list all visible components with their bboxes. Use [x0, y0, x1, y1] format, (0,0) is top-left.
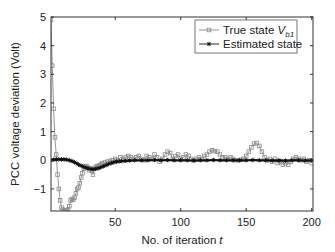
- star-marker: [237, 158, 241, 162]
- star-marker: [205, 158, 209, 162]
- star-marker: [185, 158, 189, 162]
- star-marker: [211, 158, 215, 162]
- legend-label-text: Estimated state: [223, 38, 302, 50]
- y-tick-label: 2: [40, 97, 46, 109]
- star-marker: [283, 158, 287, 162]
- y-tick-label: 0: [40, 154, 46, 166]
- star-marker: [277, 158, 281, 162]
- x-tick-label: 150: [237, 216, 255, 228]
- star-marker: [152, 158, 156, 162]
- y-tick-label: 5: [40, 11, 46, 23]
- legend-label: Estimated state: [223, 38, 302, 50]
- y-tick-label: 3: [40, 68, 46, 80]
- star-marker: [290, 158, 294, 162]
- star-marker: [165, 158, 169, 162]
- star-marker: [139, 158, 143, 162]
- chart: 50100150200−1012345 No. of iterationt PC…: [0, 0, 335, 252]
- star-marker: [207, 42, 211, 46]
- legend-label-text: True state: [223, 24, 278, 36]
- star-marker: [159, 158, 163, 162]
- star-marker: [231, 158, 235, 162]
- star-marker: [270, 158, 274, 162]
- x-axis-label: No. of iterationt: [142, 234, 224, 246]
- star-marker: [133, 158, 137, 162]
- star-marker: [120, 159, 124, 163]
- star-marker: [146, 158, 150, 162]
- star-marker: [123, 159, 127, 163]
- y-axis-label: PCC voltage deviation (Volt): [9, 42, 21, 186]
- star-marker: [218, 158, 222, 162]
- star-marker: [224, 158, 228, 162]
- y-tick-label: 4: [40, 40, 46, 52]
- x-tick-label: 100: [172, 216, 190, 228]
- star-marker: [296, 158, 300, 162]
- star-marker: [192, 158, 196, 162]
- star-marker: [257, 158, 261, 162]
- star-marker: [127, 158, 131, 162]
- star-marker: [178, 158, 182, 162]
- star-marker: [303, 158, 307, 162]
- y-tick-label: −1: [33, 183, 46, 195]
- star-marker: [172, 158, 176, 162]
- x-tick-label: 50: [109, 216, 121, 228]
- x-tick-label: 200: [303, 216, 321, 228]
- star-marker: [251, 158, 255, 162]
- x-axis-label-text: No. of iteration: [142, 234, 217, 246]
- star-marker: [198, 158, 202, 162]
- legend: True state Vb1Estimated state: [195, 20, 302, 53]
- y-tick-label: 1: [40, 126, 46, 138]
- star-marker: [264, 158, 268, 162]
- star-marker: [244, 158, 248, 162]
